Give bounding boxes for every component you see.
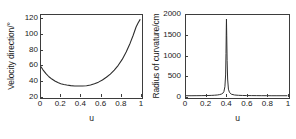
- x-tick-label: 1: [286, 100, 290, 108]
- y-tick-label: 500: [168, 72, 181, 80]
- x-tick-label: 0: [38, 100, 42, 108]
- x-axis-ticks-right: 00.20.40.60.81: [185, 100, 290, 112]
- y-tick-label: 2000: [163, 10, 181, 18]
- y-tick-label: 40: [29, 77, 38, 85]
- radius-of-curvature-line-svg: [186, 15, 289, 98]
- x-axis-label-right: u: [185, 114, 290, 123]
- x-tick-mark: [288, 94, 289, 97]
- x-tick-mark: [226, 94, 227, 97]
- x-tick-mark: [40, 94, 41, 97]
- y-tick-mark: [185, 97, 188, 98]
- plot-area-left: [40, 14, 143, 99]
- y-tick-label: 1500: [163, 31, 181, 39]
- velocity-direction-series: [41, 20, 140, 86]
- x-tick-label: 0.4: [221, 100, 232, 108]
- chart-panel-velocity-direction: Velocity direction/° 20406080100120 00.2…: [0, 0, 148, 139]
- y-tick-label: 80: [29, 46, 38, 54]
- radius-of-curvature-series: [186, 19, 287, 96]
- y-tick-mark: [40, 18, 43, 19]
- y-axis-ticks-left: 20406080100120: [14, 14, 38, 97]
- x-tick-mark: [247, 94, 248, 97]
- y-tick-mark: [185, 76, 188, 77]
- y-tick-mark: [185, 14, 188, 15]
- y-tick-mark: [185, 56, 188, 57]
- y-tick-mark: [40, 65, 43, 66]
- y-tick-label: 0: [177, 93, 181, 101]
- x-tick-label: 0.8: [115, 100, 126, 108]
- x-tick-mark: [60, 94, 61, 97]
- x-tick-mark: [101, 94, 102, 97]
- x-tick-label: 0.8: [262, 100, 273, 108]
- y-tick-mark: [185, 35, 188, 36]
- x-tick-mark: [206, 94, 207, 97]
- x-tick-label: 1: [139, 100, 143, 108]
- x-tick-mark: [80, 94, 81, 97]
- figure-container: Velocity direction/° 20406080100120 00.2…: [0, 0, 296, 139]
- x-axis-label-left: u: [40, 114, 143, 123]
- x-tick-mark: [267, 94, 268, 97]
- x-tick-label: 0: [183, 100, 187, 108]
- y-tick-label: 120: [25, 14, 38, 22]
- y-tick-mark: [40, 34, 43, 35]
- velocity-direction-line-svg: [41, 15, 142, 98]
- x-tick-label: 0.6: [241, 100, 252, 108]
- x-tick-mark: [185, 94, 186, 97]
- x-tick-label: 0.2: [55, 100, 66, 108]
- y-tick-label: 100: [25, 30, 38, 38]
- plot-area-right: [185, 14, 290, 99]
- y-tick-mark: [40, 97, 43, 98]
- y-tick-mark: [40, 81, 43, 82]
- x-tick-mark: [121, 94, 122, 97]
- x-tick-label: 0.6: [95, 100, 106, 108]
- x-tick-label: 0.4: [75, 100, 86, 108]
- y-tick-label: 1000: [163, 52, 181, 60]
- x-tick-label: 0.2: [200, 100, 211, 108]
- y-axis-ticks-right: 0500100015002000: [157, 14, 181, 97]
- chart-panel-radius-of-curvature: Radius of curvature/cm 0500100015002000 …: [148, 0, 296, 139]
- y-tick-label: 60: [29, 61, 38, 69]
- y-tick-mark: [40, 50, 43, 51]
- y-tick-label: 20: [29, 93, 38, 101]
- x-tick-mark: [141, 94, 142, 97]
- x-axis-ticks-left: 00.20.40.60.81: [40, 100, 143, 112]
